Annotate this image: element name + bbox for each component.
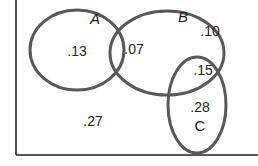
region-b-and-c-value: .15 — [193, 63, 212, 77]
set-a-label: A — [90, 11, 100, 26]
set-c-label: C — [195, 118, 206, 133]
region-c-only-value: .28 — [190, 100, 209, 114]
region-outside-value: .27 — [83, 114, 102, 128]
region-a-only-value: .13 — [67, 44, 86, 58]
region-a-and-b-value: .07 — [124, 42, 143, 56]
region-b-only-value: .10 — [200, 24, 219, 38]
set-b-label: B — [178, 9, 188, 24]
